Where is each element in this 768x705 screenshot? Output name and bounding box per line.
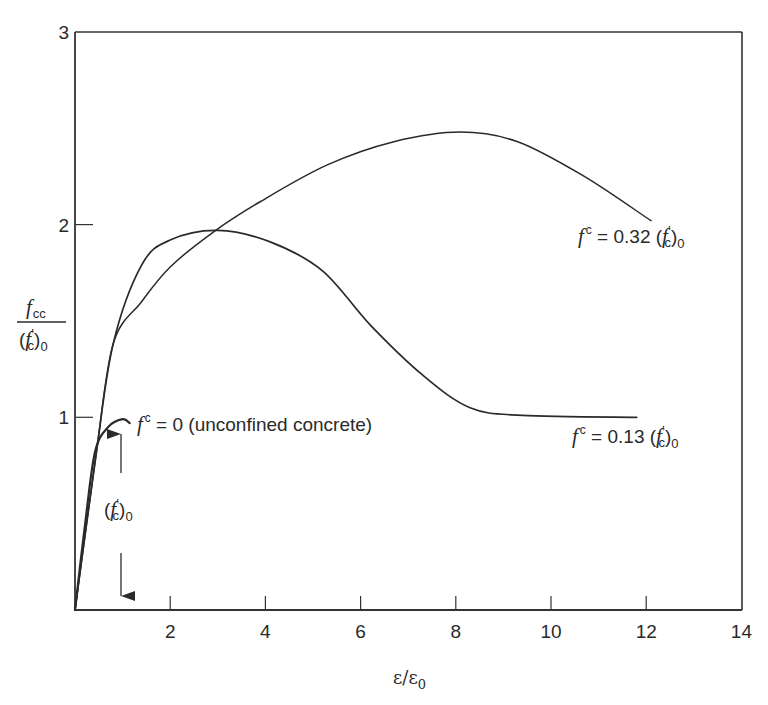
x-tick-label: 10 [540,621,561,642]
chart-canvas: 2468101214123 (f′c)0 fc = 0 (unconfined … [0,0,768,705]
fc0-label: (f′c)0 [104,496,133,524]
y-label-numerator: fcc [26,295,46,321]
x-axis-label: ε/ε0 [393,667,426,692]
y-axis-label: fcc (f′c)0 [17,295,66,354]
y-tick-label: 2 [58,215,69,236]
unconfined-curve-label: fc = 0 (unconfined concrete) [137,411,372,436]
fc032-curve-label: fc = 0.32 (f′c)0 [578,223,684,251]
x-tick-label: 4 [260,621,271,642]
axis-tick-labels: 2468101214123 [58,22,752,642]
x-tick-label: 2 [165,621,176,642]
y-tick-label: 3 [58,22,69,43]
y-tick-label: 1 [58,407,69,428]
x-tick-label: 8 [451,621,462,642]
curves [75,132,651,610]
fc032-curve [75,132,651,610]
fc013-curve-label: fc = 0.13 (f′c)0 [572,423,678,451]
x-tick-label: 6 [355,621,366,642]
y-label-denominator: (f′c)0 [19,326,48,354]
x-tick-label: 12 [636,621,657,642]
x-tick-label: 14 [731,621,753,642]
plot-frame [74,32,742,610]
